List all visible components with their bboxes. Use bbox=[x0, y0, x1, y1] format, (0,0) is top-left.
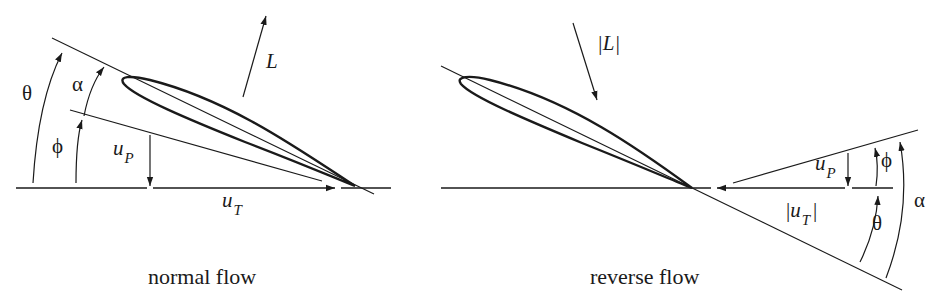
reverse-flow-diagram bbox=[441, 23, 918, 290]
normal-chord-line bbox=[52, 38, 374, 194]
reverse-up-sub: P bbox=[827, 165, 836, 181]
reverse-theta-label: θ bbox=[872, 213, 882, 234]
normal-lift-arrow bbox=[243, 16, 266, 97]
normal-up-sub: P bbox=[125, 150, 134, 166]
reverse-ut-label: |uT| bbox=[786, 200, 817, 221]
normal-flow-diagram bbox=[16, 16, 391, 194]
normal-up-label: uP bbox=[113, 138, 134, 159]
normal-lift-label: L bbox=[266, 51, 278, 72]
reverse-ut-post: | bbox=[813, 198, 817, 222]
normal-ut-main: u bbox=[222, 188, 233, 212]
normal-theta-label: θ bbox=[22, 83, 32, 104]
reverse-ut-main: u bbox=[790, 198, 801, 222]
normal-phi-label: ϕ bbox=[52, 136, 63, 157]
normal-ut-sub: T bbox=[234, 202, 242, 218]
reverse-phi-arc bbox=[875, 148, 877, 186]
normal-theta-arc bbox=[33, 53, 62, 183]
reverse-up-main: u bbox=[815, 151, 826, 175]
reverse-lift-label: |L| bbox=[597, 33, 620, 54]
normal-alpha-label: α bbox=[72, 74, 83, 95]
normal-up-main: u bbox=[113, 136, 124, 160]
normal-ut-label: uT bbox=[222, 190, 242, 211]
reverse-alpha-label: α bbox=[914, 190, 925, 211]
reverse-up-label: uP bbox=[815, 153, 836, 174]
reverse-flow-caption: reverse flow bbox=[590, 266, 699, 288]
normal-flow-caption: normal flow bbox=[148, 266, 256, 288]
reverse-phi-label: ϕ bbox=[881, 150, 892, 171]
airfoil-flow-diagram bbox=[0, 0, 942, 307]
normal-phi-arc bbox=[76, 120, 82, 183]
normal-airfoil bbox=[122, 77, 355, 186]
normal-alpha-arc bbox=[84, 67, 104, 116]
reverse-ut-sub: T bbox=[802, 212, 810, 228]
reverse-lift-arrow bbox=[573, 23, 597, 100]
